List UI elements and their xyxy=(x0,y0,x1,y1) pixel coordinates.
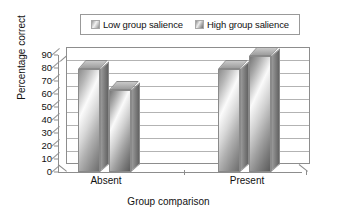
bar-swatch-high-icon xyxy=(195,20,204,29)
y-axis-tick-label: 80 xyxy=(41,63,52,73)
y-axis: 90 80 70 60 50 40 30 20 10 0 xyxy=(24,47,58,172)
x-axis: Absent Present xyxy=(58,176,310,192)
x-axis-tick-mark xyxy=(306,170,307,175)
y-axis-tick-label: 40 xyxy=(41,115,52,125)
bar-side-face xyxy=(271,48,280,172)
y-axis-tick-label: 50 xyxy=(41,102,52,112)
y-axis-tick-label: 30 xyxy=(41,128,52,138)
bar-present-low-group-salience xyxy=(218,69,240,172)
y-axis-tick-label: 20 xyxy=(41,141,52,151)
plot-floor-front-edge xyxy=(58,172,302,173)
legend-entry-high-group-salience: High group salience xyxy=(195,20,289,30)
bar-side-face xyxy=(131,82,140,172)
x-axis-tick-label-present: Present xyxy=(230,176,264,186)
bar-side-face xyxy=(100,61,109,172)
y-axis-tick-label: 90 xyxy=(41,50,52,60)
x-axis-tick-label-absent: Absent xyxy=(90,176,121,186)
bar-front-face xyxy=(78,69,100,172)
bar-front-face xyxy=(109,90,131,172)
legend-label-low-group-salience: Low group salience xyxy=(103,20,183,30)
y-axis-tick-label: 10 xyxy=(41,154,52,164)
y-axis-tick-label: 60 xyxy=(41,89,52,99)
legend-entry-low-group-salience: Low group salience xyxy=(91,20,183,30)
bar-absent-high-group-salience xyxy=(109,90,131,172)
bar-chart: Low group salience High group salience P… xyxy=(0,0,337,216)
x-axis-title: Group comparison xyxy=(0,196,337,207)
y-axis-tick-label: 70 xyxy=(41,76,52,86)
bar-swatch-low-icon xyxy=(91,20,100,29)
bar-present-high-group-salience xyxy=(249,56,271,172)
bars-layer xyxy=(58,47,310,172)
chart-legend: Low group salience High group salience xyxy=(80,14,300,35)
bar-absent-low-group-salience xyxy=(78,69,100,172)
bar-front-face xyxy=(249,56,271,172)
bar-front-face xyxy=(218,69,240,172)
x-axis-tick-mark xyxy=(184,170,185,175)
bar-side-face xyxy=(240,61,249,172)
legend-label-high-group-salience: High group salience xyxy=(207,20,289,30)
